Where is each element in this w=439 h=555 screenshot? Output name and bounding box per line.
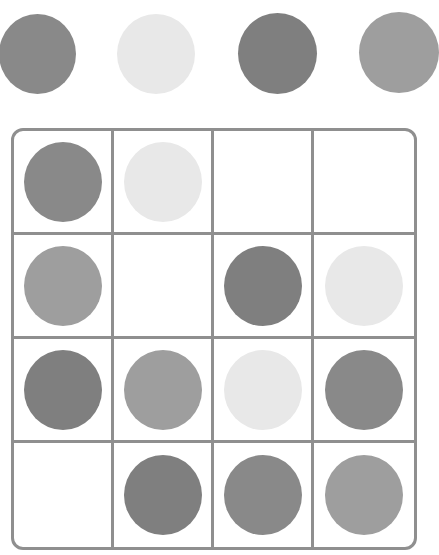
grid-cell-r2-c4 <box>314 235 414 339</box>
reference-circle-4 <box>359 12 439 93</box>
circle-medium-dark <box>325 350 403 430</box>
grid-cell-r3-c2 <box>114 339 214 443</box>
reference-circle-1 <box>0 14 76 94</box>
reference-circle-3 <box>238 13 317 94</box>
reference-circle-row <box>0 0 439 110</box>
grid-cell-r4-c4 <box>314 443 414 547</box>
circle-dark <box>224 246 302 326</box>
grid-cell-r2-c2 <box>114 235 214 339</box>
grid-cell-r1-c4 <box>314 131 414 235</box>
circle-dark <box>124 455 202 535</box>
circle-light <box>325 246 403 326</box>
grid-cell-r4-c1 <box>14 443 114 547</box>
circle-medium-dark <box>224 455 302 535</box>
grid-cell-r2-c1 <box>14 235 114 339</box>
circle-light <box>124 142 202 222</box>
grid-cell-r4-c2 <box>114 443 214 547</box>
grid-cell-r4-c3 <box>214 443 314 547</box>
circle-medium <box>325 455 403 535</box>
grid-cell-r1-c1 <box>14 131 114 235</box>
circle-medium <box>124 350 202 430</box>
circle-grid <box>11 128 417 550</box>
circle-dark <box>24 350 102 430</box>
grid-cell-r3-c4 <box>314 339 414 443</box>
grid-cell-r3-c1 <box>14 339 114 443</box>
grid-cell-r3-c3 <box>214 339 314 443</box>
grid-cell-r2-c3 <box>214 235 314 339</box>
grid-cell-r1-c2 <box>114 131 214 235</box>
reference-circle-2 <box>117 14 195 94</box>
grid-cell-r1-c3 <box>214 131 314 235</box>
circle-medium-dark <box>24 142 102 222</box>
circle-light <box>224 350 302 430</box>
circle-medium <box>24 246 102 326</box>
